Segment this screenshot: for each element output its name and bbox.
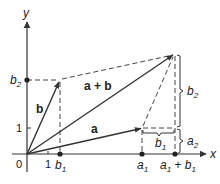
- vector-b-label: b: [36, 102, 43, 116]
- x-tick-label-1: 1: [45, 158, 51, 170]
- a1-plus-b1-point: [172, 151, 177, 156]
- b2-axis-label: b2: [10, 73, 22, 89]
- y-tick-label-1: 1: [16, 122, 22, 134]
- braces: [143, 55, 183, 154]
- a-tip-to-sum-dash: [143, 57, 173, 126]
- y-axis-label: y: [22, 6, 30, 20]
- b2-point: [24, 77, 29, 82]
- b1-axis-label: b1: [55, 158, 66, 174]
- brace-labels: b1 a2 b2: [155, 84, 199, 152]
- b2-brace: [177, 55, 183, 127]
- a2-brace: [177, 129, 183, 154]
- origin-label: 0: [16, 158, 22, 170]
- vectors: b a a + b: [27, 55, 173, 154]
- vector-a-label: a: [91, 122, 98, 136]
- a2-brace-label: a2: [187, 134, 199, 150]
- x-axis-label: x: [209, 147, 217, 161]
- b1-point: [57, 151, 62, 156]
- a1-point: [139, 151, 144, 156]
- vector-a: [27, 129, 141, 155]
- b2-brace-label: b2: [187, 84, 199, 100]
- b1-brace-label: b1: [155, 136, 166, 152]
- vector-addition-diagram: y x 0 1 1 b a a + b b2 b1 a1: [0, 0, 220, 184]
- vector-sum-label: a + b: [84, 79, 112, 93]
- a1-axis-label: a1: [137, 158, 148, 174]
- a1-plus-b1-axis-label: a1 + b1: [160, 158, 196, 174]
